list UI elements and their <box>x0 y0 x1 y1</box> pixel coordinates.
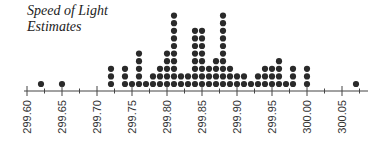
data-dot <box>136 51 142 57</box>
dot-plot: 299.60299.65299.70299.75299.80299.85299.… <box>0 0 388 145</box>
data-dot <box>220 58 226 64</box>
data-dot <box>143 81 149 87</box>
data-dot <box>353 81 359 87</box>
data-dot <box>269 73 275 79</box>
data-dot <box>276 66 282 72</box>
data-dot <box>164 73 170 79</box>
data-dot <box>220 35 226 41</box>
data-dot <box>122 73 128 79</box>
data-dot <box>122 66 128 72</box>
data-dot <box>213 66 219 72</box>
data-dot <box>213 73 219 79</box>
data-dot <box>206 81 212 87</box>
data-dot <box>220 51 226 57</box>
data-dot <box>171 35 177 41</box>
data-dot <box>269 66 275 72</box>
data-dot <box>199 58 205 64</box>
data-dot <box>171 66 177 72</box>
data-dot <box>276 81 282 87</box>
data-dot <box>171 81 177 87</box>
data-dot <box>185 73 191 79</box>
data-dot <box>276 73 282 79</box>
data-dot <box>171 51 177 57</box>
data-dot <box>108 73 114 79</box>
x-axis-tick-labels: 299.60299.65299.70299.75299.80299.85299.… <box>21 100 348 134</box>
data-dot <box>171 13 177 19</box>
tick-label: 300.00 <box>301 100 313 134</box>
data-dot <box>290 73 296 79</box>
data-dot <box>220 43 226 49</box>
data-dot <box>220 28 226 34</box>
data-dot <box>234 73 240 79</box>
data-dot <box>206 66 212 72</box>
data-dot <box>262 81 268 87</box>
tick-label: 300.05 <box>336 100 348 134</box>
data-dot <box>136 58 142 64</box>
dot-series <box>38 13 359 88</box>
tick-label: 299.95 <box>266 100 278 134</box>
data-dot <box>220 20 226 26</box>
data-dot <box>241 73 247 79</box>
data-dot <box>108 81 114 87</box>
data-dot <box>171 58 177 64</box>
data-dot <box>199 28 205 34</box>
data-dot <box>150 73 156 79</box>
data-dot <box>290 66 296 72</box>
data-dot <box>192 58 198 64</box>
data-dot <box>171 73 177 79</box>
data-dot <box>150 81 156 87</box>
data-dot <box>220 81 226 87</box>
data-dot <box>227 81 233 87</box>
data-dot <box>192 35 198 41</box>
data-dot <box>227 66 233 72</box>
data-dot <box>241 81 247 87</box>
data-dot <box>122 81 128 87</box>
data-dot <box>290 81 296 87</box>
data-dot <box>255 81 261 87</box>
tick-label: 299.85 <box>196 100 208 134</box>
data-dot <box>178 81 184 87</box>
data-dot <box>199 35 205 41</box>
data-dot <box>220 13 226 19</box>
data-dot <box>262 73 268 79</box>
data-dot <box>192 66 198 72</box>
data-dot <box>164 66 170 72</box>
data-dot <box>206 73 212 79</box>
data-dot <box>192 81 198 87</box>
data-dot <box>304 73 310 79</box>
data-dot <box>157 66 163 72</box>
data-dot <box>262 66 268 72</box>
data-dot <box>192 73 198 79</box>
tick-label: 299.70 <box>91 100 103 134</box>
data-dot <box>220 73 226 79</box>
tick-label: 299.60 <box>21 100 33 134</box>
data-dot <box>220 66 226 72</box>
data-dot <box>248 81 254 87</box>
tick-label: 299.80 <box>161 100 173 134</box>
data-dot <box>283 81 289 87</box>
data-dot <box>227 73 233 79</box>
tick-label: 299.90 <box>231 100 243 134</box>
data-dot <box>199 66 205 72</box>
tick-label: 299.65 <box>56 100 68 134</box>
data-dot <box>136 66 142 72</box>
data-dot <box>199 43 205 49</box>
tick-label: 299.75 <box>126 100 138 134</box>
data-dot <box>157 73 163 79</box>
data-dot <box>213 81 219 87</box>
data-dot <box>255 73 261 79</box>
data-dot <box>38 81 44 87</box>
data-dot <box>157 81 163 87</box>
data-dot <box>164 58 170 64</box>
data-dot <box>213 58 219 64</box>
data-dot <box>199 51 205 57</box>
data-dot <box>192 43 198 49</box>
data-dot <box>178 73 184 79</box>
data-dot <box>192 28 198 34</box>
data-dot <box>199 73 205 79</box>
data-dot <box>276 58 282 64</box>
data-dot <box>185 81 191 87</box>
data-dot <box>304 66 310 72</box>
data-dot <box>136 73 142 79</box>
data-dot <box>171 28 177 34</box>
